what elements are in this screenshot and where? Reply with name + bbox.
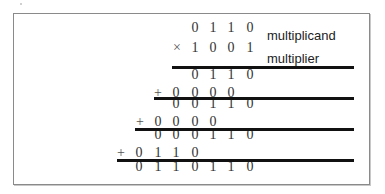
stray-dot — [20, 3, 22, 5]
sum-rule — [135, 128, 354, 131]
sum-rule — [172, 66, 354, 69]
digit: 0 — [222, 40, 240, 56]
times-sign: × — [170, 40, 184, 56]
digit: 0 — [241, 20, 259, 36]
multiplier-label: multiplier — [267, 51, 319, 67]
sum-rule — [154, 97, 354, 100]
digit: 1 — [222, 67, 240, 83]
digit: 0 — [186, 67, 204, 83]
sum-rule — [117, 159, 354, 162]
digit: 1 — [204, 67, 222, 83]
digit: 1 — [204, 20, 222, 36]
digit: 0 — [204, 40, 222, 56]
digit: 0 — [186, 20, 204, 36]
digit: 1 — [241, 40, 259, 56]
digit: 1 — [186, 40, 204, 56]
digit: 1 — [222, 20, 240, 36]
digit: 0 — [241, 67, 259, 83]
multiplicand-label: multiplicand — [267, 28, 336, 44]
